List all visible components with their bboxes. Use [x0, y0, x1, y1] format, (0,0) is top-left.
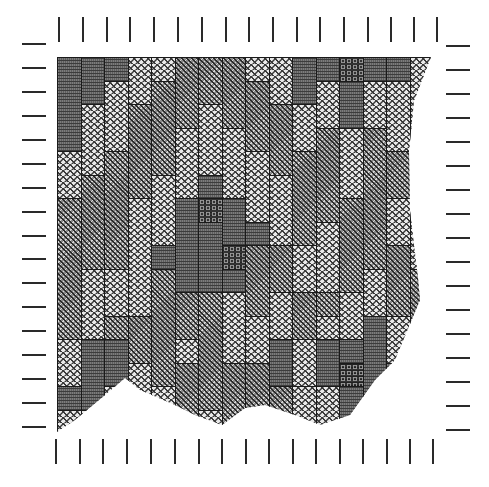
quilt-block-dark-stripe — [104, 339, 129, 387]
quilt-block-light-zigzag — [222, 292, 247, 364]
quilt-block-light-zigzag — [316, 81, 341, 129]
quilt-block-light-zigzag — [128, 363, 153, 411]
tick-mark — [102, 439, 104, 464]
quilt-block-medium-key — [222, 57, 247, 129]
tick-mark — [225, 17, 227, 42]
quilt-block-light-zigzag — [363, 269, 388, 317]
tick-mark — [174, 439, 176, 464]
tick-mark — [319, 17, 321, 42]
quilt-block-medium-key — [363, 128, 388, 270]
quilt-block-light-zigzag — [292, 386, 317, 434]
quilt-block-medium-key — [292, 292, 317, 340]
quilt-block-dark-stripe — [339, 339, 364, 364]
quilt-block-medium-key — [151, 410, 176, 435]
quilt-block-light-zigzag — [81, 269, 106, 341]
tick-mark — [446, 117, 470, 119]
quilt-block-light-zigzag — [57, 410, 82, 435]
quilt-block-medium-key — [128, 104, 153, 199]
quilt-block-light-zigzag — [128, 57, 153, 105]
quilt-block-medium-key — [410, 128, 435, 223]
quilt-block-medium-key — [245, 81, 270, 153]
quilt-block-light-zigzag — [386, 81, 411, 153]
quilt-block-light-zigzag — [245, 316, 270, 364]
quilt-block-light-zigzag — [292, 245, 317, 293]
tick-mark — [446, 93, 470, 95]
quilt-block-light-zigzag — [57, 339, 82, 387]
tick-mark — [79, 439, 81, 464]
quilt-block-dark-stripe — [198, 222, 223, 294]
tick-mark — [22, 258, 46, 260]
tick-mark — [126, 439, 128, 464]
tick-mark — [446, 69, 470, 71]
tick-mark — [446, 165, 470, 167]
tick-mark — [22, 139, 46, 141]
quilt-block-medium-key — [245, 245, 270, 317]
tick-mark — [446, 237, 470, 239]
quilt-block-dark-stripe — [175, 198, 200, 293]
tick-mark — [221, 439, 223, 464]
quilt-block-medium-key — [104, 151, 129, 270]
tick-mark — [198, 439, 200, 464]
quilt-block-medium-key — [151, 81, 176, 176]
tick-mark — [153, 17, 155, 42]
tick-mark — [292, 439, 294, 464]
quilt-block-dark-stripe — [386, 363, 411, 435]
tick-mark — [432, 439, 434, 464]
quilt-block-light-zigzag — [316, 222, 341, 294]
tick-mark — [367, 17, 369, 42]
tick-mark — [248, 17, 250, 42]
quilt-block-light-zigzag — [316, 386, 341, 434]
quilt-block-light-zigzag — [363, 410, 388, 435]
quilt-block-medium-key — [222, 363, 247, 435]
quilt-block-light-zigzag — [104, 386, 129, 434]
quilt-block-light-zigzag — [222, 128, 247, 200]
tick-mark — [177, 17, 179, 42]
tick-mark — [315, 439, 317, 464]
quilt-block-medium-key — [245, 363, 270, 435]
tick-mark — [436, 17, 438, 42]
tick-mark — [446, 357, 470, 359]
tick-mark — [22, 354, 46, 356]
quilt-block-light-zigzag — [386, 316, 411, 364]
quilt-block-light-zigzag — [410, 57, 435, 129]
quilt-block-dark-stripe — [222, 198, 247, 246]
tick-mark — [446, 285, 470, 287]
tick-mark — [409, 439, 411, 464]
quilt-block-light-zigzag — [410, 363, 435, 435]
tick-mark — [22, 282, 46, 284]
quilt-block-dark-stripe — [292, 57, 317, 105]
quilt-block-light-zigzag — [339, 128, 364, 200]
tick-mark — [446, 333, 470, 335]
tick-mark — [446, 45, 470, 47]
tick-mark — [446, 189, 470, 191]
quilt-block-medium-key — [175, 292, 200, 340]
quilt-block-light-zigzag — [386, 198, 411, 246]
quilt-block-medium-key — [151, 269, 176, 388]
tick-mark — [22, 43, 46, 45]
tick-mark — [413, 17, 415, 42]
quilt-block-medium-key — [269, 104, 294, 176]
tick-mark — [22, 163, 46, 165]
quilt-block-darkest-dot — [198, 198, 223, 223]
tick-mark — [296, 17, 298, 42]
quilt-block-light-zigzag — [363, 81, 388, 129]
quilt-block-dark-stripe — [57, 57, 82, 152]
quilt-block-medium-key — [175, 363, 200, 435]
quilt-block-light-zigzag — [269, 175, 294, 247]
quilt-block-medium-key — [128, 410, 153, 435]
tick-mark — [22, 211, 46, 213]
quilt-block-light-zigzag — [104, 269, 129, 317]
quilt-block-light-zigzag — [151, 175, 176, 247]
quilt-block-dark-stripe — [339, 386, 364, 434]
quilt-block-medium-key — [269, 386, 294, 434]
quilt-block-medium-key — [292, 151, 317, 246]
quilt-block-dark-stripe — [222, 269, 247, 294]
quilt-block-light-zigzag — [151, 57, 176, 82]
tick-mark — [446, 405, 470, 407]
quilt-block-medium-key — [386, 151, 411, 199]
tick-mark — [339, 439, 341, 464]
quilt-block-medium-key — [198, 57, 223, 105]
quilt-block-dark-stripe — [316, 339, 341, 387]
quilt-block-light-zigzag — [269, 292, 294, 340]
quilt-block-medium-key — [316, 292, 341, 317]
